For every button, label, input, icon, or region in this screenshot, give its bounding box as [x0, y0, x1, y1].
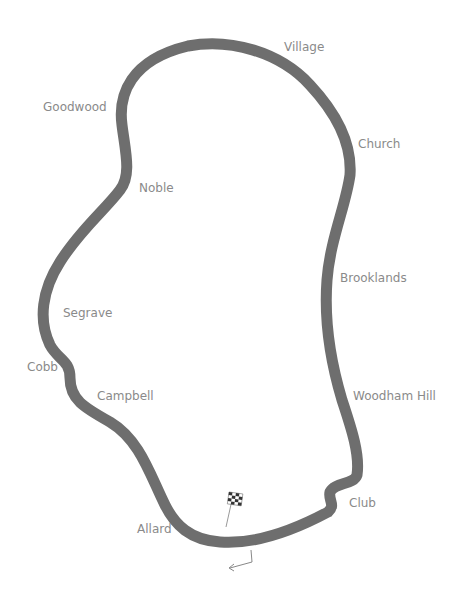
corner-label-village: Village — [284, 41, 324, 53]
track-outline — [43, 44, 357, 543]
corner-label-cobb: Cobb — [27, 361, 58, 373]
corner-label-campbell: Campbell — [97, 390, 154, 402]
corner-label-segrave: Segrave — [63, 307, 112, 319]
direction-arrow-icon — [229, 550, 252, 571]
corner-label-allard: Allard — [137, 523, 172, 535]
corner-label-church: Church — [358, 138, 400, 150]
corner-label-brooklands: Brooklands — [340, 272, 407, 284]
corner-label-goodwood: Goodwood — [43, 101, 107, 113]
corner-label-club: Club — [349, 497, 376, 509]
corner-label-noble: Noble — [139, 182, 174, 194]
corner-label-woodham-hill: Woodham Hill — [353, 390, 436, 402]
checkered-flag-icon — [227, 492, 243, 506]
circuit-map — [0, 0, 465, 605]
